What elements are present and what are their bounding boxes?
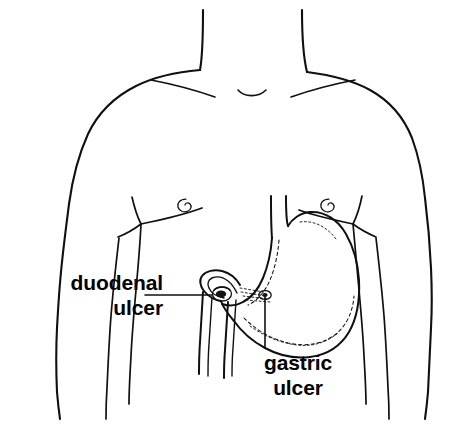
gastric-rugae-lining (240, 222, 354, 346)
anatomy-figure: duodenalulcer gastriculcer (0, 0, 461, 425)
neck-outline (200, 10, 307, 72)
duodenal-ulcer-label-line2: ulcer (113, 296, 163, 319)
duodenal-ulcer-label-line1: duodenal (70, 271, 163, 294)
clavicle-lines (151, 80, 355, 97)
pectoral-crease-lines (141, 208, 353, 224)
duodenal-ulcer-label: duodenalulcer (23, 270, 163, 320)
stomach (221, 212, 359, 358)
esophagus (271, 196, 288, 238)
left-nipple (178, 199, 191, 212)
gastric-ulcer-label: gastriculcer (243, 350, 353, 400)
right-nipple (321, 199, 334, 212)
anatomy-illustration (0, 0, 461, 425)
duodenal-ulcer-lesion (213, 287, 232, 301)
gastric-ulcer-label-line1: gastric (264, 351, 332, 374)
gastric-ulcer-label-line2: ulcer (273, 376, 323, 399)
